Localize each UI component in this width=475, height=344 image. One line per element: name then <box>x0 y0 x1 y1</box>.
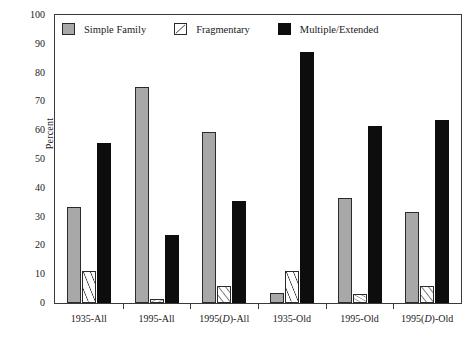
x-axis-tick-label: 1995(D)-Old <box>377 313 475 324</box>
bar <box>97 143 111 303</box>
x-axis-tick-mark <box>258 304 259 309</box>
legend-swatch-simple-icon <box>62 23 75 35</box>
y-axis-tick-label: 60 <box>0 124 52 136</box>
legend-label: Fragmentary <box>196 24 250 35</box>
bar <box>232 201 246 303</box>
legend-label: Multiple/Extended <box>300 24 379 35</box>
x-axis-tick-mark <box>123 304 124 309</box>
legend-entry: Simple Family <box>62 23 146 35</box>
bar <box>165 235 179 303</box>
y-axis-tick-label: 30 <box>0 211 52 223</box>
bar <box>270 293 284 303</box>
legend-swatch-frag-icon <box>174 23 187 35</box>
y-axis-tick-label: 40 <box>0 182 52 194</box>
bar <box>135 87 149 303</box>
y-axis-tick-label: 50 <box>0 153 52 165</box>
bar <box>202 132 216 303</box>
legend-entry: Fragmentary <box>174 23 250 35</box>
y-axis-tick-label: 80 <box>0 67 52 79</box>
bars-layer <box>55 15 461 303</box>
bar <box>338 198 352 303</box>
bar <box>82 271 96 303</box>
bar <box>435 120 449 303</box>
x-axis-tick-mark <box>190 304 191 309</box>
legend-label: Simple Family <box>84 24 146 35</box>
legend-entry: Multiple/Extended <box>278 23 379 35</box>
bar <box>420 286 434 303</box>
bar <box>368 126 382 303</box>
bar <box>300 52 314 303</box>
x-axis-tick-mark <box>326 304 327 309</box>
bar <box>150 299 164 303</box>
y-axis-tick-label: 10 <box>0 268 52 280</box>
bar <box>217 286 231 303</box>
bar <box>67 207 81 303</box>
chart-legend: Simple FamilyFragmentaryMultiple/Extende… <box>62 21 379 37</box>
y-axis-tick-label: 0 <box>0 297 52 309</box>
y-axis-tick-label: 20 <box>0 239 52 251</box>
bar <box>353 294 367 303</box>
y-axis-tick-label: 100 <box>0 9 52 21</box>
legend-swatch-multiple-icon <box>278 23 291 35</box>
bar <box>405 212 419 303</box>
y-axis-tick-label: 90 <box>0 38 52 50</box>
y-axis-tick-label: 70 <box>0 95 52 107</box>
bar <box>285 271 299 303</box>
bar-chart-figure: Percent 0102030405060708090100 1935-All1… <box>0 0 475 344</box>
x-axis-tick-mark <box>393 304 394 309</box>
